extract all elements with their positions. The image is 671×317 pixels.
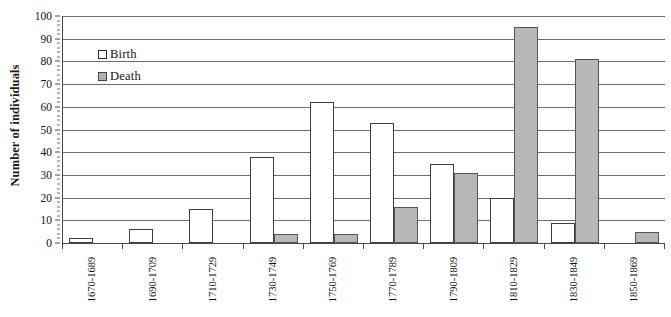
x-axis-tick-mark (243, 243, 244, 249)
y-axis-minor-tick (57, 179, 60, 180)
bar-birth-1830-1849 (551, 223, 575, 243)
y-axis-minor-tick (57, 102, 60, 103)
y-axis-minor-tick (57, 229, 60, 230)
y-axis-tick-label: 40 (41, 146, 53, 158)
x-axis-tick-mark (483, 243, 484, 249)
x-axis-tick-mark (664, 243, 665, 249)
y-axis-minor-tick (57, 165, 60, 166)
y-axis-minor-tick (57, 111, 60, 112)
y-axis-minor-tick (57, 120, 60, 121)
y-axis-minor-tick (57, 202, 60, 203)
death-swatch-icon (98, 72, 107, 81)
y-axis-tick-mark (55, 38, 60, 39)
bar-group (364, 16, 424, 243)
y-axis-tick-label: 50 (41, 124, 53, 136)
y-axis-minor-tick (57, 233, 60, 234)
y-axis-minor-tick (57, 161, 60, 162)
y-axis-minor-tick (57, 188, 60, 189)
bar-birth-1730-1749 (250, 157, 274, 243)
x-axis-tick-label: 1850-1869 (604, 250, 664, 314)
bar-birth-1690-1709 (129, 229, 153, 243)
y-axis-tick-mark (55, 106, 60, 107)
y-axis-minor-tick (57, 224, 60, 225)
y-axis-minor-tick (57, 70, 60, 71)
x-axis-tick-label-text: 1750-1769 (327, 257, 338, 303)
y-axis-minor-tick (57, 215, 60, 216)
y-axis-tick-label: 60 (41, 101, 53, 113)
y-axis-minor-tick (57, 124, 60, 125)
bar-group (304, 16, 364, 243)
chart-legend: Birth Death (98, 45, 218, 89)
y-axis-minor-tick (57, 93, 60, 94)
bar-death-1770-1789 (394, 207, 418, 243)
y-axis-tick-mark (55, 220, 60, 221)
y-axis-minor-tick (57, 138, 60, 139)
bar-death-1850-1869 (635, 232, 659, 243)
legend-item-birth: Birth (98, 45, 218, 63)
bar-group (605, 16, 665, 243)
y-axis-minor-tick (57, 206, 60, 207)
x-axis-tick-mark (182, 243, 183, 249)
y-axis-minor-tick (57, 115, 60, 116)
x-axis-tick-label-text: 1790-1809 (448, 257, 459, 303)
x-axis-tick-mark (363, 243, 364, 249)
x-axis-tick-mark (604, 243, 605, 249)
x-axis-tick-mark (62, 243, 63, 249)
x-axis-tick-label-text: 1670-1689 (87, 257, 98, 303)
x-axis-tick-label: 1790-1809 (423, 250, 483, 314)
y-axis-minor-tick (57, 20, 60, 21)
y-axis-minor-tick (57, 97, 60, 98)
x-axis-tick-label: 1810-1829 (484, 250, 544, 314)
legend-item-death: Death (98, 67, 218, 85)
x-axis-tick-label-text: 1730-1749 (267, 257, 278, 303)
y-axis-tick-label: 80 (41, 55, 53, 67)
x-axis-tick-label: 1750-1769 (303, 250, 363, 314)
x-axis-tick-mark (544, 243, 545, 249)
x-axis-tick-label: 1710-1729 (183, 250, 243, 314)
legend-label-birth: Birth (110, 47, 137, 62)
bar-group (545, 16, 605, 243)
birth-swatch-icon (98, 50, 107, 59)
y-axis-minor-tick (57, 56, 60, 57)
bar-group (484, 16, 544, 243)
y-axis-tick-mark (55, 84, 60, 85)
y-axis-tick-mark (55, 197, 60, 198)
x-axis-tick-label: 1670-1689 (62, 250, 122, 314)
x-axis-tick-label: 1690-1709 (122, 250, 182, 314)
y-axis-minor-tick (57, 134, 60, 135)
bar-death-1810-1829 (514, 27, 538, 243)
bar-birth-1810-1829 (490, 198, 514, 243)
y-axis-tick-mark (55, 129, 60, 130)
y-axis-tick-labels: 0102030405060708090100 (0, 16, 60, 243)
y-axis-minor-tick (57, 88, 60, 89)
y-axis-tick-label: 10 (41, 214, 53, 226)
y-axis-minor-tick (57, 75, 60, 76)
bar-death-1790-1809 (454, 173, 478, 243)
y-axis-minor-tick (57, 183, 60, 184)
bar-birth-1710-1729 (189, 209, 213, 243)
x-axis-tick-label-text: 1690-1709 (147, 257, 158, 303)
y-axis-minor-tick (57, 170, 60, 171)
x-axis-tick-label-text: 1810-1829 (508, 257, 519, 303)
bar-birth-1750-1769 (310, 102, 334, 243)
y-axis-tick-mark (55, 152, 60, 153)
x-axis-tick-label-text: 1710-1729 (207, 257, 218, 303)
x-axis-tick-label-text: 1850-1869 (628, 257, 639, 303)
y-axis-tick-label: 70 (41, 78, 53, 90)
y-axis-tick-label: 100 (35, 10, 52, 22)
bar-group (424, 16, 484, 243)
y-axis-tick-mark (55, 174, 60, 175)
y-axis-tick-label: 90 (41, 33, 53, 45)
bar-birth-1790-1809 (430, 164, 454, 243)
x-axis-tick-label: 1730-1749 (243, 250, 303, 314)
y-axis-minor-tick (57, 34, 60, 35)
y-axis-tick-label: 30 (41, 169, 53, 181)
y-axis-minor-tick (57, 65, 60, 66)
legend-label-death: Death (110, 69, 141, 84)
y-axis-minor-tick (57, 211, 60, 212)
x-axis-tick-label: 1770-1789 (363, 250, 423, 314)
y-axis-minor-tick (57, 29, 60, 30)
x-axis-ticks (62, 243, 664, 249)
x-axis-tick-mark (122, 243, 123, 249)
bar-chart: Number of individuals 010203040506070809… (0, 0, 671, 317)
